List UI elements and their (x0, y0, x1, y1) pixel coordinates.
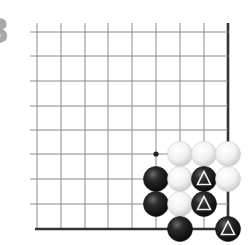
black-stone[interactable] (192, 192, 217, 217)
point-marker-dot (153, 151, 158, 156)
white-stone[interactable] (216, 142, 241, 167)
white-stone[interactable] (168, 142, 193, 167)
black-stone[interactable] (216, 217, 241, 242)
board-stones (144, 142, 241, 242)
white-stone[interactable] (168, 192, 193, 217)
go-board[interactable] (0, 0, 252, 245)
black-stone[interactable] (192, 167, 217, 192)
black-stone[interactable] (168, 217, 193, 242)
board-marks (153, 151, 158, 156)
white-stone[interactable] (168, 167, 193, 192)
black-stone[interactable] (144, 167, 169, 192)
white-stone[interactable] (216, 167, 241, 192)
white-stone[interactable] (192, 142, 217, 167)
black-stone[interactable] (144, 192, 169, 217)
